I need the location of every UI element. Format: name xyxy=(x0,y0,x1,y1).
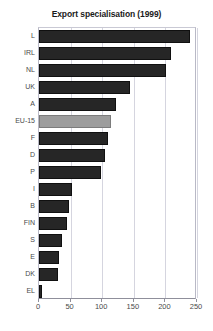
bar-s[interactable] xyxy=(39,234,62,247)
bars-layer xyxy=(39,28,195,298)
bar-row xyxy=(39,149,195,162)
bar-b[interactable] xyxy=(39,200,69,213)
bar-l[interactable] xyxy=(39,30,190,43)
bar-eu-15[interactable] xyxy=(39,115,111,128)
chart-title: Export specialisation (1999) xyxy=(0,9,213,19)
bar-row xyxy=(39,251,195,264)
bar-row xyxy=(39,81,195,94)
y-axis-tick-label-eu-15: EU-15 xyxy=(0,117,35,124)
y-axis-tick-label-dk: DK xyxy=(0,270,35,277)
bar-row xyxy=(39,183,195,196)
bar-row xyxy=(39,217,195,230)
y-axis-tick-label-l: L xyxy=(0,32,35,39)
x-axis-tick xyxy=(38,299,39,302)
y-axis-tick-label-i: I xyxy=(0,185,35,192)
y-axis-tick-label-b: B xyxy=(0,202,35,209)
bar-nl[interactable] xyxy=(39,64,166,77)
x-axis-tick xyxy=(164,299,165,302)
bar-dk[interactable] xyxy=(39,268,58,281)
x-axis-tick-label-250: 250 xyxy=(190,303,203,311)
y-axis-tick-label-f: F xyxy=(0,134,35,141)
bar-row xyxy=(39,132,195,145)
bar-row xyxy=(39,285,195,298)
x-axis-tick-label-0: 0 xyxy=(36,303,40,311)
bar-row xyxy=(39,98,195,111)
x-axis-tick xyxy=(133,299,134,302)
y-axis-tick-label-d: D xyxy=(0,151,35,158)
x-axis-tick-label-150: 150 xyxy=(127,303,140,311)
x-axis-tick xyxy=(70,299,71,302)
gridline xyxy=(197,28,198,298)
bar-row xyxy=(39,115,195,128)
y-axis-tick-label-irl: IRL xyxy=(0,49,35,56)
bar-row xyxy=(39,47,195,60)
y-axis-tick-label-a: A xyxy=(0,100,35,107)
bar-p[interactable] xyxy=(39,166,101,179)
bar-row xyxy=(39,166,195,179)
bar-el[interactable] xyxy=(39,285,42,298)
bar-e[interactable] xyxy=(39,251,59,264)
bar-fin[interactable] xyxy=(39,217,67,230)
chart-container: Export specialisation (1999) LIRLNLUKAEU… xyxy=(0,0,213,331)
bar-irl[interactable] xyxy=(39,47,171,60)
plot-area xyxy=(38,27,196,299)
y-axis-tick-label-uk: UK xyxy=(0,83,35,90)
x-axis-tick xyxy=(101,299,102,302)
bar-row xyxy=(39,268,195,281)
x-axis-tick-label-100: 100 xyxy=(95,303,108,311)
y-axis-labels: LIRLNLUKAEU-15FDPIBFINSEDKEL xyxy=(0,27,35,299)
y-axis-tick-label-fin: FIN xyxy=(0,219,35,226)
y-axis-tick-label-el: EL xyxy=(0,287,35,294)
bar-uk[interactable] xyxy=(39,81,130,94)
y-axis-tick-label-p: P xyxy=(0,168,35,175)
bar-i[interactable] xyxy=(39,183,72,196)
bar-d[interactable] xyxy=(39,149,105,162)
x-axis-labels: 050100150200250 xyxy=(0,303,213,319)
bar-row xyxy=(39,234,195,247)
x-axis-tick-label-200: 200 xyxy=(158,303,171,311)
bar-a[interactable] xyxy=(39,98,116,111)
y-axis-tick-label-s: S xyxy=(0,236,35,243)
bar-row xyxy=(39,64,195,77)
y-axis-tick-label-nl: NL xyxy=(0,66,35,73)
x-axis-tick-label-50: 50 xyxy=(65,303,73,311)
bar-row xyxy=(39,30,195,43)
bar-f[interactable] xyxy=(39,132,108,145)
x-axis-tick xyxy=(196,299,197,302)
y-axis-tick-label-e: E xyxy=(0,253,35,260)
bar-row xyxy=(39,200,195,213)
